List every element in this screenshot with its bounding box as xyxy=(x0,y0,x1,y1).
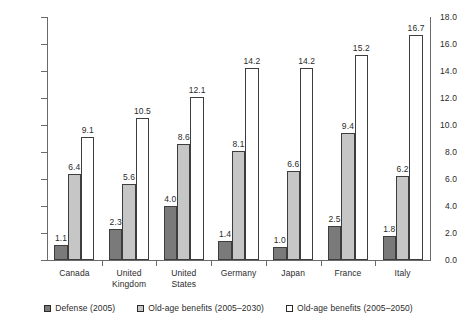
bar-group: 2.35.610.5 xyxy=(109,17,149,260)
bar-value-label: 1.1 xyxy=(55,233,67,243)
bar-value-label: 14.2 xyxy=(298,56,315,66)
bar-value-label: 6.4 xyxy=(68,162,80,172)
bar xyxy=(177,144,190,260)
y-axis-tick xyxy=(41,233,47,234)
bar-value-label: 9.1 xyxy=(82,125,94,135)
x-axis-category-label: Germany xyxy=(221,268,257,279)
x-axis-category-label: Canada xyxy=(59,268,89,279)
bar-value-label: 8.1 xyxy=(232,139,244,149)
plot-right-border xyxy=(430,17,431,261)
x-axis-tick xyxy=(102,261,103,266)
bar-value-label: 12.1 xyxy=(189,85,206,95)
y-axis-tick-label: 4.0 xyxy=(421,201,457,211)
y-axis-tick-label: 8.0 xyxy=(421,147,457,157)
bar-value-label: 2.3 xyxy=(110,217,122,227)
bar xyxy=(218,241,231,260)
bar-group: 1.86.216.7 xyxy=(383,17,423,260)
legend-item[interactable]: Defense (2005) xyxy=(44,303,115,313)
x-axis-category-label: United Kingdom xyxy=(112,268,146,289)
legend-item-label: Old-age benefits (2005–2050) xyxy=(297,303,413,313)
y-axis-tick xyxy=(41,206,47,207)
bar-value-label: 10.5 xyxy=(134,106,151,116)
bar xyxy=(190,97,203,260)
x-axis-tick xyxy=(211,261,212,266)
y-axis-tick xyxy=(41,71,47,72)
bar xyxy=(122,184,135,260)
bar-value-label: 4.0 xyxy=(164,194,176,204)
bar-value-label: 1.0 xyxy=(274,235,286,245)
y-axis-tick xyxy=(41,260,47,261)
bar xyxy=(328,226,341,260)
bar xyxy=(54,245,67,260)
bar xyxy=(300,68,313,260)
bar xyxy=(136,118,149,260)
bar xyxy=(355,55,368,260)
dark-gray-square-icon xyxy=(44,305,51,312)
y-axis-tick-label: 18.0 xyxy=(421,12,457,22)
bar-value-label: 9.4 xyxy=(342,121,354,131)
bar xyxy=(273,247,286,261)
bar xyxy=(232,151,245,260)
x-axis-category-label: France xyxy=(334,268,361,279)
light-gray-square-icon xyxy=(137,305,144,312)
bar-group: 1.06.614.2 xyxy=(273,17,313,260)
legend-item[interactable]: Old-age benefits (2005–2050) xyxy=(286,303,413,313)
y-axis-tick-label: 16.0 xyxy=(421,39,457,49)
bar xyxy=(109,229,122,260)
white-square-icon xyxy=(286,305,293,312)
x-axis-line xyxy=(47,260,431,261)
bar xyxy=(81,137,94,260)
bar-value-label: 6.6 xyxy=(287,159,299,169)
legend-item[interactable]: Old-age benefits (2005–2030) xyxy=(137,303,264,313)
bar xyxy=(164,206,177,260)
bar-value-label: 1.4 xyxy=(219,229,231,239)
x-axis-tick xyxy=(266,261,267,266)
bar-value-label: 6.2 xyxy=(397,164,409,174)
bar xyxy=(68,174,81,260)
bar-chart: 0.02.04.06.08.010.012.014.016.018.0 1.16… xyxy=(0,0,457,326)
bar xyxy=(383,236,396,260)
legend-item-label: Old-age benefits (2005–2030) xyxy=(148,303,264,313)
y-axis-line xyxy=(47,17,48,261)
bar-value-label: 5.6 xyxy=(123,172,135,182)
bar-value-label: 16.7 xyxy=(408,23,425,33)
chart-legend: Defense (2005)Old-age benefits (2005–203… xyxy=(0,303,457,313)
y-axis-tick xyxy=(41,125,47,126)
y-axis-tick-label: 6.0 xyxy=(421,174,457,184)
y-axis-tick xyxy=(41,98,47,99)
y-axis-tick-label: 0.0 xyxy=(421,255,457,265)
y-axis-tick xyxy=(41,17,47,18)
y-axis-tick-label: 14.0 xyxy=(421,66,457,76)
bar xyxy=(396,176,409,260)
bar-group: 4.08.612.1 xyxy=(164,17,204,260)
bar-group: 1.48.114.2 xyxy=(218,17,258,260)
x-axis-tick xyxy=(321,261,322,266)
x-axis-category-label: Japan xyxy=(281,268,305,279)
x-axis-category-label: United States xyxy=(171,268,196,289)
y-axis-tick-label: 2.0 xyxy=(421,228,457,238)
bar-value-label: 15.2 xyxy=(353,43,370,53)
y-axis-tick xyxy=(41,152,47,153)
bar xyxy=(341,133,354,260)
bar-group: 1.16.49.1 xyxy=(54,17,94,260)
bar xyxy=(287,171,300,260)
x-axis-tick xyxy=(375,261,376,266)
x-axis-tick xyxy=(156,261,157,266)
y-axis-tick-label: 12.0 xyxy=(421,93,457,103)
bar xyxy=(245,68,258,260)
bar-value-label: 8.6 xyxy=(178,132,190,142)
y-axis-tick xyxy=(41,44,47,45)
bar-value-label: 14.2 xyxy=(243,56,260,66)
bar-group: 2.59.415.2 xyxy=(328,17,368,260)
bar xyxy=(409,35,422,260)
y-axis-tick-label: 10.0 xyxy=(421,120,457,130)
x-axis-category-label: Italy xyxy=(395,268,411,279)
legend-item-label: Defense (2005) xyxy=(55,303,115,313)
bar-value-label: 2.5 xyxy=(328,214,340,224)
bar-value-label: 1.8 xyxy=(383,224,395,234)
y-axis-tick xyxy=(41,179,47,180)
